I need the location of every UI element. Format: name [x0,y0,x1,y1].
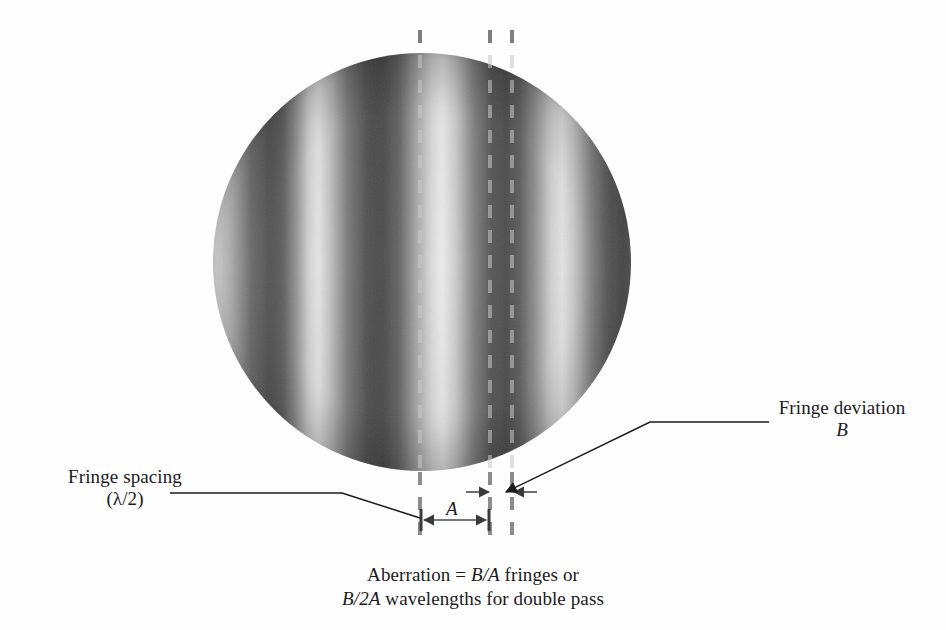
interferogram-disc [205,45,645,485]
leader-fringe-deviation [506,422,769,492]
fringe-deviation-label-line1: Fringe deviation [752,397,932,419]
caption-line-1-math: B/A [471,564,500,585]
fringe-deviation-label: Fringe deviation B [752,397,932,442]
fringe-spacing-label-line2: (λ/2) [30,488,220,510]
figure-container: Fringe spacing (λ/2) Fringe deviation B … [0,0,946,630]
fringe-spacing-label-line1: Fringe spacing [30,466,220,488]
dimension-a-letter: A [446,498,458,520]
caption-line-1: Aberration = B/A fringes or [253,563,693,587]
caption-line-2-suffix: wavelengths for double pass [381,588,604,609]
fringe-deviation-label-line2: B [752,419,932,441]
caption-line-2-math: B/2A [342,588,380,609]
caption-line-2: B/2A wavelengths for double pass [253,587,693,611]
figure-graphics [0,0,946,630]
fringe-spacing-label: Fringe spacing (λ/2) [30,466,220,511]
aberration-caption: Aberration = B/A fringes or B/2A wavelen… [253,563,693,611]
caption-line-1-suffix: fringes or [500,564,579,585]
caption-line-1-prefix: Aberration = [367,564,471,585]
